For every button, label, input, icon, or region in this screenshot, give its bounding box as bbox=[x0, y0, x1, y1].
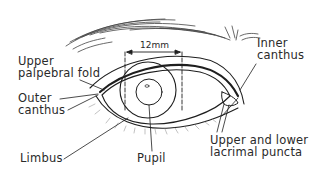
limbus-circle bbox=[120, 62, 176, 118]
label-inner-canthus: Inner canthus bbox=[257, 37, 304, 61]
eye-anatomy-diagram: 12mm Upper palpebral fold Inner canthus … bbox=[0, 0, 312, 179]
label-pupil: Pupil bbox=[137, 152, 166, 164]
measurement-label: 12mm bbox=[140, 40, 169, 50]
label-lacrimal-puncta: Upper and lower lacrimal puncta bbox=[210, 134, 308, 158]
label-upper-palpebral-fold: Upper palpebral fold bbox=[18, 55, 100, 79]
upper-palpebral-fold-line bbox=[90, 56, 244, 104]
pupil-circle bbox=[136, 79, 162, 105]
label-outer-canthus: Outer canthus bbox=[18, 92, 65, 116]
label-limbus: Limbus bbox=[20, 152, 63, 164]
